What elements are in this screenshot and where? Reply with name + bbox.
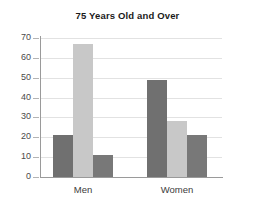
y-axis-tick (33, 98, 39, 99)
chart-title: 75 Years Old and Over (0, 10, 255, 21)
y-axis-tick-label: 40 (5, 93, 31, 102)
y-axis-tick-label: 30 (5, 112, 31, 121)
x-axis-category-label: Women (137, 184, 217, 195)
bar-men-series-2 (73, 44, 93, 177)
y-axis-tick (33, 58, 39, 59)
bar-women-series-1 (147, 80, 167, 177)
y-axis-tick (33, 157, 39, 158)
bar-men-series-3 (93, 155, 113, 177)
y-axis-tick-label: 10 (5, 152, 31, 161)
x-axis-line (40, 177, 223, 178)
y-axis-tick (33, 117, 39, 118)
y-axis-tick-label: 70 (5, 33, 31, 42)
y-axis-tick-label: 0 (5, 172, 31, 181)
y-axis-labels: 010203040506070 (0, 0, 31, 210)
y-axis-tick-label: 50 (5, 73, 31, 82)
bar-women-series-2 (167, 121, 187, 177)
y-axis-tick (33, 177, 39, 178)
bars-layer (40, 38, 223, 177)
y-axis-tick (33, 137, 39, 138)
bar-men-series-1 (53, 135, 73, 177)
y-axis-tick-label: 60 (5, 53, 31, 62)
y-axis-tick (33, 78, 39, 79)
bar-chart: 75 Years Old and Over 010203040506070 Me… (0, 0, 255, 210)
bar-women-series-3 (187, 135, 207, 177)
y-axis-tick (33, 38, 39, 39)
y-axis-tick-label: 20 (5, 132, 31, 141)
x-axis-category-label: Men (43, 184, 123, 195)
